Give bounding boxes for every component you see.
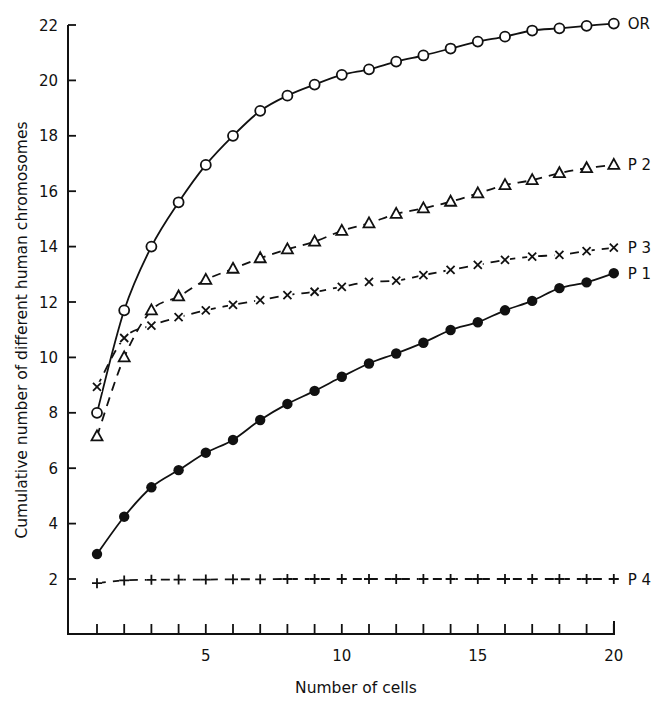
y-tick-label: 6	[48, 460, 58, 478]
triangle-marker	[200, 274, 211, 284]
filled-circle-marker	[337, 372, 347, 382]
filled-circle-marker	[228, 435, 238, 445]
open-circle-marker	[418, 50, 428, 60]
series-label-p1: P 1	[628, 265, 651, 283]
filled-circle-marker	[418, 338, 428, 348]
filled-circle-marker	[146, 482, 156, 492]
filled-circle-marker	[173, 465, 183, 475]
series-layer	[92, 19, 620, 589]
triangle-marker	[581, 162, 592, 172]
series-p2	[92, 159, 620, 440]
y-tick-label: 2	[48, 571, 58, 589]
open-circle-marker	[554, 23, 564, 33]
open-circle-marker	[364, 64, 374, 74]
y-tick-label: 16	[39, 183, 58, 201]
triangle-marker	[228, 263, 239, 273]
series-label-or: OR	[628, 15, 650, 33]
y-tick-label: 8	[48, 404, 58, 422]
y-tick-label: 20	[39, 72, 58, 90]
open-circle-marker	[310, 80, 320, 90]
filled-circle-marker	[445, 325, 455, 335]
open-circle-marker	[92, 408, 102, 418]
open-circle-marker	[500, 32, 510, 42]
curve-or	[97, 24, 614, 413]
open-circle-marker	[337, 70, 347, 80]
triangle-marker	[445, 196, 456, 206]
series-label-p4: P 4	[628, 571, 651, 589]
open-circle-marker	[473, 37, 483, 47]
filled-circle-marker	[527, 296, 537, 306]
series-or	[92, 19, 619, 418]
triangle-marker	[336, 225, 347, 235]
triangle-marker	[92, 430, 103, 440]
open-circle-marker	[609, 19, 619, 29]
x-axis-title: Number of cells	[295, 679, 417, 697]
open-circle-marker	[228, 131, 238, 141]
open-circle-marker	[201, 160, 211, 170]
x-axis-ticks: 5101520	[97, 624, 623, 665]
triangle-marker	[119, 351, 130, 361]
series-p1	[92, 268, 619, 559]
open-circle-marker	[582, 21, 592, 31]
filled-circle-marker	[609, 268, 619, 278]
y-axis-title: Cumulative number of different human chr…	[13, 121, 31, 538]
series-label-p2: P 2	[628, 156, 651, 174]
filled-circle-marker	[581, 277, 591, 287]
triangle-marker	[173, 290, 184, 300]
y-tick-label: 22	[39, 17, 58, 35]
series-p4	[92, 574, 619, 588]
open-circle-marker	[446, 44, 456, 54]
filled-circle-marker	[92, 549, 102, 559]
chromosome-accumulation-chart: 246810121416182022 5101520 ORP 2P 3P 1P …	[0, 0, 665, 701]
filled-circle-marker	[119, 511, 129, 521]
triangle-marker	[472, 187, 483, 197]
open-circle-marker	[282, 91, 292, 101]
series-labels: ORP 2P 3P 1P 4	[628, 15, 651, 588]
triangle-marker	[554, 167, 565, 177]
open-circle-marker	[174, 197, 184, 207]
filled-circle-marker	[364, 358, 374, 368]
filled-circle-marker	[309, 386, 319, 396]
x-tick-label: 15	[468, 647, 487, 665]
y-axis-ticks: 246810121416182022	[39, 17, 76, 589]
x-tick-label: 10	[332, 647, 351, 665]
filled-circle-marker	[255, 415, 265, 425]
y-tick-label: 12	[39, 294, 58, 312]
filled-circle-marker	[473, 317, 483, 327]
x-tick-label: 5	[201, 647, 211, 665]
filled-circle-marker	[201, 447, 211, 457]
triangle-marker	[364, 217, 375, 227]
open-circle-marker	[146, 242, 156, 252]
open-circle-marker	[255, 106, 265, 116]
open-circle-marker	[527, 26, 537, 36]
triangle-marker	[146, 304, 157, 314]
x-tick-label: 20	[604, 647, 623, 665]
open-circle-marker	[391, 57, 401, 67]
filled-circle-marker	[391, 348, 401, 358]
y-tick-label: 14	[39, 238, 58, 256]
filled-circle-marker	[282, 399, 292, 409]
filled-circle-marker	[554, 283, 564, 293]
y-tick-label: 10	[39, 349, 58, 367]
y-tick-label: 4	[48, 515, 58, 533]
open-circle-marker	[119, 305, 129, 315]
series-label-p3: P 3	[628, 239, 651, 257]
triangle-marker	[608, 159, 619, 169]
y-tick-label: 18	[39, 127, 58, 145]
filled-circle-marker	[500, 305, 510, 315]
